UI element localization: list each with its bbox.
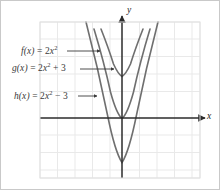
x-axis-label: x [207, 112, 211, 122]
quadratic-graph-figure: f(x) = 2x2 g(x) = 2x2 + 3 h(x) = 2x2 − 3… [0, 0, 220, 190]
label-g-tail: + 3 [51, 63, 66, 73]
label-h-arg: (x) [19, 91, 30, 101]
label-f-power: 2 [54, 44, 57, 51]
y-axis-label: y [127, 6, 131, 16]
label-g-arg: (x) [17, 63, 28, 73]
label-h-tail: − 3 [53, 91, 68, 101]
label-f-arg: (x) [24, 46, 35, 56]
label-f-eq: = 2 [35, 46, 50, 56]
function-label-h: h(x) = 2x2 − 3 [14, 92, 68, 102]
label-h-eq: = 2 [30, 91, 45, 101]
function-label-g: g(x) = 2x2 + 3 [12, 64, 66, 74]
label-g-eq: = 2 [28, 63, 43, 73]
function-label-f: f(x) = 2x2 [21, 47, 58, 57]
